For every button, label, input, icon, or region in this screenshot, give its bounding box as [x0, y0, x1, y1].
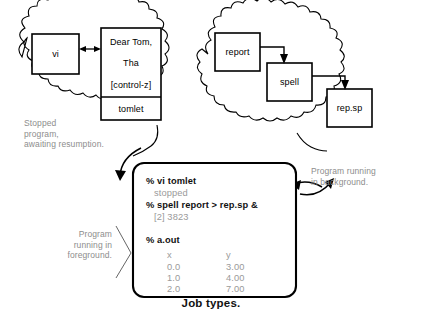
foreground-label-pointer: [116, 226, 131, 278]
editor-buffer-filename: tomlet: [118, 104, 143, 114]
terminal-line-4: % a.out: [146, 235, 180, 245]
job-types-figure: vi Dear Tom, Tha [control-z] tomlet repo…: [0, 0, 422, 317]
terminal-table-row-2-y: 7.00: [226, 284, 245, 294]
left-cloud-tail: [133, 125, 158, 156]
terminal-table-row-1-y: 4.00: [226, 273, 245, 283]
editor-buffer-line-3: [control-z]: [111, 80, 152, 90]
terminal-table-header-x: x: [167, 250, 172, 260]
terminal-table-row-0-x: 0.0: [167, 262, 180, 272]
foreground-job-annotation: Program running in foreground.: [38, 229, 112, 261]
box-report-label: report: [225, 47, 249, 57]
vi-buffer-arrowhead-right: [94, 46, 101, 52]
figure-caption: Job types.: [0, 297, 422, 309]
box-repsp-label: rep.sp: [337, 103, 363, 113]
vi-buffer-arrowhead-left: [79, 46, 86, 52]
box-spell-label: spell: [280, 77, 299, 87]
terminal-table-row-2-x: 2.0: [167, 284, 180, 294]
stopped-job-annotation: Stopped program, awaiting resumption.: [24, 118, 104, 150]
terminal-line-2: % spell report > rep.sp &: [146, 200, 258, 210]
editor-buffer-line-2: Tha: [123, 58, 139, 68]
terminal-line-1: stopped: [146, 188, 188, 198]
box-vi-label: vi: [52, 49, 59, 59]
terminal-line-3: [2] 3823: [146, 212, 188, 222]
figure-artwork: [0, 0, 422, 317]
terminal-line-0: % vi tomlet: [146, 176, 196, 186]
background-job-annotation: Program running in background.: [311, 166, 376, 187]
terminal-table-header-y: y: [226, 250, 231, 260]
report-spell-connector: [260, 47, 284, 60]
stopped-job-arrowhead: [115, 170, 126, 181]
right-cloud-tail: [297, 133, 327, 151]
terminal-table-row-0-y: 3.00: [226, 262, 245, 272]
editor-buffer-line-1: Dear Tom,: [110, 37, 152, 47]
terminal-table-row-1-x: 1.0: [167, 273, 180, 283]
